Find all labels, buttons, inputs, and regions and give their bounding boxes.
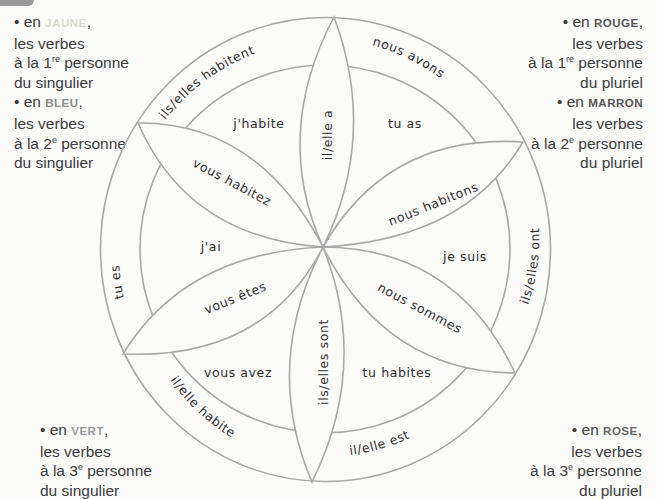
word-je-suis: je suis [442, 249, 487, 264]
petal-upper-right [323, 141, 523, 247]
word-vous-avez: vous avez [204, 365, 272, 380]
conjugation-flower-diagram: ils/elles habitent nous avons ils/elles … [0, 0, 657, 499]
word-il-elle-a: il/elle a [320, 110, 335, 161]
word-ils-elles-ont: ils/elles ont [517, 227, 543, 306]
word-j-habite: j'habite [232, 116, 284, 131]
word-ils-elles-sont: ils/elles sont [316, 319, 331, 405]
word-tu-as: tu as [388, 116, 422, 131]
word-j-ai: j'ai [200, 239, 221, 254]
word-tu-es: tu es [107, 264, 127, 300]
word-il-elle-habite: il/elle habite [168, 373, 239, 441]
word-il-elle-est: il/elle est [348, 427, 411, 458]
word-tu-habites: tu habites [363, 365, 432, 380]
